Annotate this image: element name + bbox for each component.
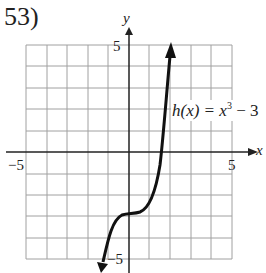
- function-label: h(x) = x3 − 3: [171, 100, 259, 121]
- y-max-label: 5: [113, 38, 121, 55]
- x-axis-label: x: [256, 142, 263, 159]
- function-name: h(x) = x: [172, 101, 227, 120]
- function-curve: [103, 56, 170, 262]
- axes: [6, 35, 250, 273]
- y-min-label: −5: [107, 251, 123, 268]
- y-axis-label: y: [123, 10, 130, 27]
- x-min-label: −5: [8, 157, 24, 174]
- graph: [0, 0, 266, 273]
- function-rest: − 3: [232, 101, 259, 120]
- x-max-label: 5: [228, 157, 236, 174]
- curve-up-arrow-icon: [165, 42, 176, 58]
- y-axis-arrow-icon: [125, 27, 133, 35]
